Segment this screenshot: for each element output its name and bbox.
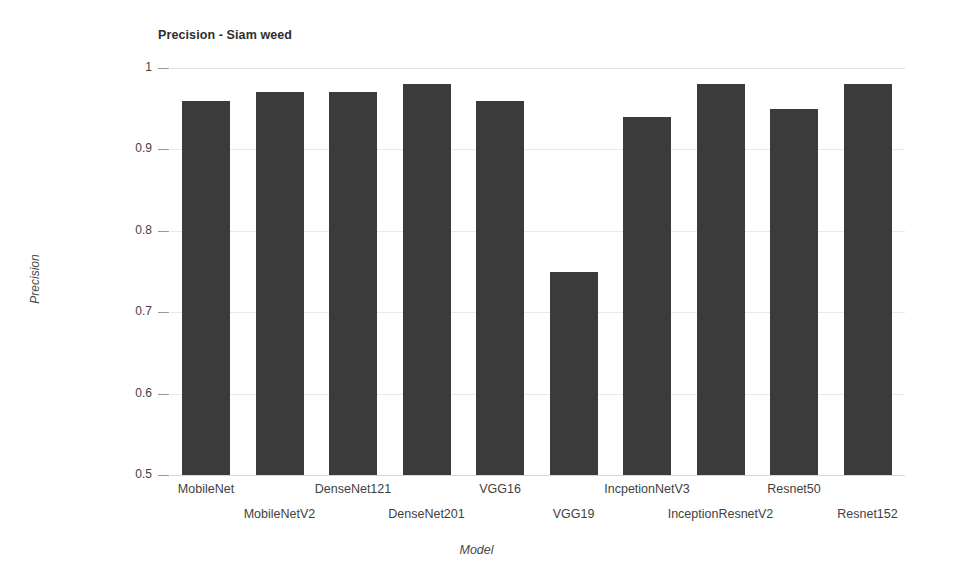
y-tick-label: 0.5	[90, 467, 152, 481]
y-tick-label: 1	[90, 60, 152, 74]
bar	[476, 101, 524, 475]
bar	[550, 272, 598, 476]
bar	[182, 101, 230, 475]
chart-title: Precision - Siam weed	[158, 28, 292, 42]
gridline	[170, 475, 905, 476]
x-tick-label: MobileNetV2	[200, 507, 360, 521]
x-axis-title: Model	[0, 543, 953, 557]
y-axis-title: Precision	[28, 234, 42, 324]
y-tick-label: 0.8	[90, 223, 152, 237]
bar	[844, 84, 892, 475]
x-tick-label: VGG16	[420, 482, 580, 496]
y-tick-mark	[158, 394, 169, 395]
y-tick-mark	[158, 68, 169, 69]
plot-area	[170, 68, 905, 475]
bar	[256, 92, 304, 475]
y-tick-mark	[158, 475, 169, 476]
x-tick-label: MobileNet	[126, 482, 286, 496]
bar	[329, 92, 377, 475]
x-tick-label: IncpetionNetV3	[567, 482, 727, 496]
gridline	[170, 68, 905, 69]
bar	[403, 84, 451, 475]
bar	[697, 84, 745, 475]
y-tick-mark	[158, 312, 169, 313]
x-tick-label: Resnet152	[788, 507, 948, 521]
bar	[770, 109, 818, 475]
y-tick-label: 0.6	[90, 386, 152, 400]
x-tick-label: DenseNet121	[273, 482, 433, 496]
chart-figure: Precision - Siam weed Precision 10.90.80…	[0, 0, 953, 567]
bar	[623, 117, 671, 475]
x-tick-label: InceptionResnetV2	[641, 507, 801, 521]
y-tick-mark	[158, 231, 169, 232]
y-tick-mark	[158, 149, 169, 150]
x-tick-label: Resnet50	[714, 482, 874, 496]
x-tick-label: DenseNet201	[347, 507, 507, 521]
y-tick-label: 0.7	[90, 304, 152, 318]
x-tick-label: VGG19	[494, 507, 654, 521]
y-tick-label: 0.9	[90, 141, 152, 155]
